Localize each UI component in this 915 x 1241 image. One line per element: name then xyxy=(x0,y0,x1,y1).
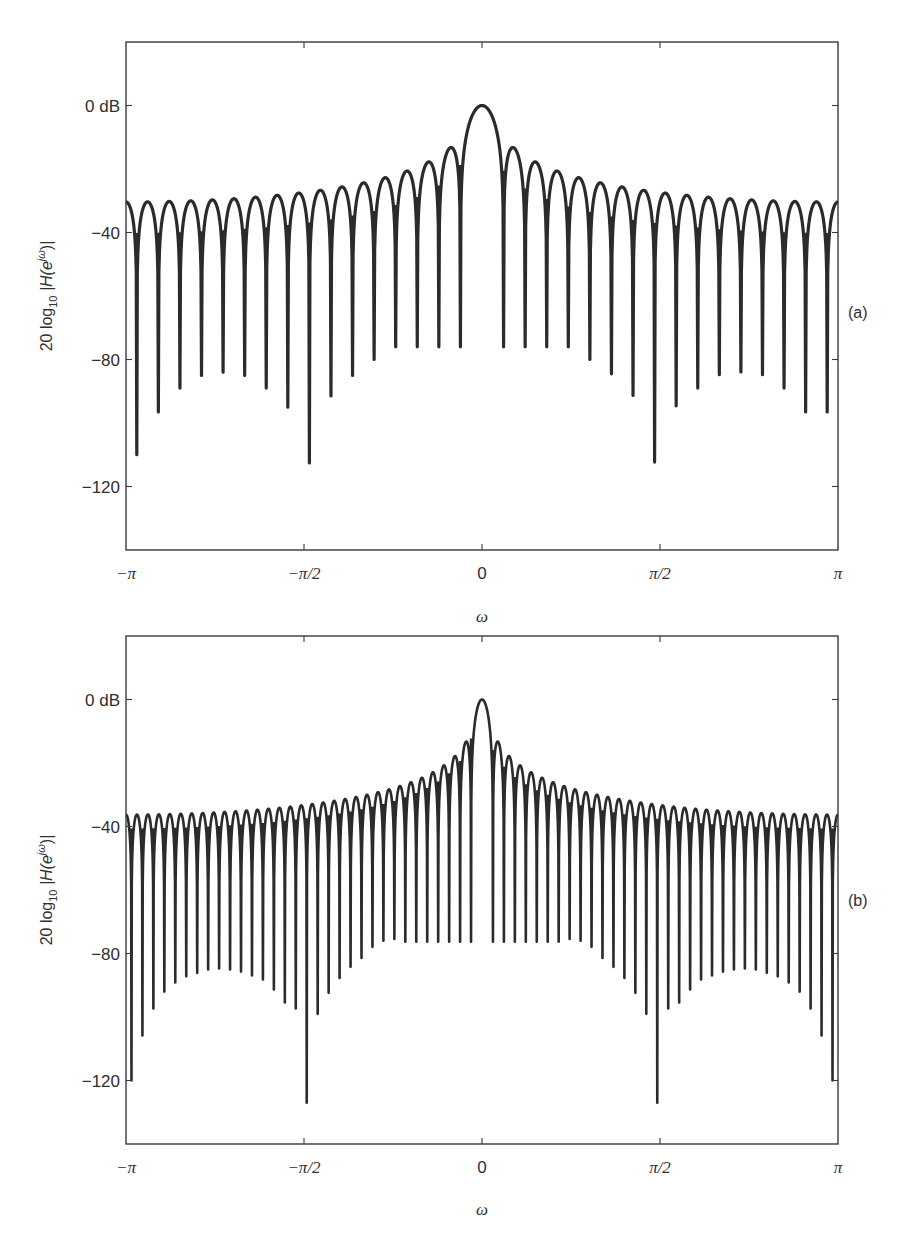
y-axis-label-b: 20 log10 |H(ejω)| xyxy=(35,835,59,946)
x-axis-label-a: ω xyxy=(476,607,488,626)
y-tick-labels-a: 0 dB−40−80−120 xyxy=(82,97,120,497)
x-tick-label: 0 xyxy=(477,1158,486,1177)
x-tick-label: −π xyxy=(116,1158,136,1177)
axis-ticks-a xyxy=(126,42,838,550)
plot-panel-a: 0 dB−40−80−120 −π−π/20π/2π ω 20 log10 |H… xyxy=(35,42,868,626)
x-tick-label: π xyxy=(834,1158,843,1177)
y-tick-labels-b: 0 dB−40−80−120 xyxy=(82,691,120,1091)
x-tick-label: −π/2 xyxy=(287,564,321,583)
y-tick-label: −40 xyxy=(91,818,120,837)
x-tick-label: π/2 xyxy=(649,564,671,583)
x-axis-label-b: ω xyxy=(476,1200,488,1219)
x-tick-labels-b: −π−π/20π/2π xyxy=(116,1158,843,1177)
axis-ticks-b xyxy=(126,636,838,1144)
x-tick-label: 0 xyxy=(477,564,486,583)
x-tick-label: −π xyxy=(116,564,136,583)
y-tick-label: −120 xyxy=(82,1072,120,1091)
y-tick-label: 0 dB xyxy=(85,691,120,710)
x-tick-label: π xyxy=(834,564,843,583)
x-tick-label: −π/2 xyxy=(287,1158,321,1177)
plot-frame-a xyxy=(126,42,838,550)
y-tick-label: −40 xyxy=(91,224,120,243)
y-tick-label: −120 xyxy=(82,478,120,497)
magnitude-curve-a xyxy=(126,106,838,464)
x-tick-labels-a: −π−π/20π/2π xyxy=(116,564,843,583)
y-tick-label: −80 xyxy=(91,351,120,370)
y-tick-label: 0 dB xyxy=(85,97,120,116)
x-tick-label: π/2 xyxy=(649,1158,671,1177)
panel-label-a: (a) xyxy=(848,304,868,321)
y-tick-label: −80 xyxy=(91,945,120,964)
magnitude-curve-b xyxy=(126,700,838,1103)
plot-panel-b: 0 dB−40−80−120 −π−π/20π/2π ω 20 log10 |H… xyxy=(35,636,868,1219)
plot-frame-b xyxy=(126,636,838,1144)
panel-label-b: (b) xyxy=(848,892,868,909)
figure: 0 dB−40−80−120 −π−π/20π/2π ω 20 log10 |H… xyxy=(0,0,915,1241)
y-axis-label-a: 20 log10 |H(ejω)| xyxy=(35,241,59,352)
